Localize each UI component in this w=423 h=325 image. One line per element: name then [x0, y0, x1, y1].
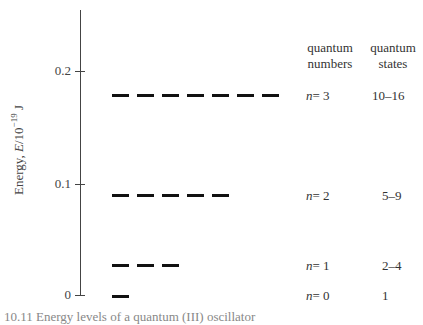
level-n1: [112, 264, 179, 267]
state-dash: [112, 295, 129, 298]
tick-label-0: 0: [65, 288, 72, 302]
y-axis-label-unit: J: [11, 105, 26, 113]
tick-label-0-1: 0.1: [55, 177, 71, 191]
state-dash: [187, 94, 204, 97]
state-dash: [137, 94, 154, 97]
state-dash: [112, 194, 129, 197]
header-line: states: [353, 56, 423, 72]
n-value: = 0: [313, 288, 330, 303]
tick-0-1: [75, 184, 85, 185]
level-n3: [112, 94, 279, 97]
y-axis-line: [80, 10, 81, 296]
state-dash: [212, 194, 229, 197]
quantum-states-n0: 1: [382, 288, 389, 304]
n-value: = 1: [313, 258, 330, 273]
quantum-number-n2: n= 2: [306, 188, 330, 204]
tick-0: [75, 295, 85, 296]
n-value: = 2: [313, 188, 330, 203]
quantum-number-n1: n= 1: [306, 258, 330, 274]
state-dash: [162, 264, 179, 267]
y-axis-label: Energy, E/10−19 J: [9, 105, 26, 195]
tick-label-0-2: 0.2: [55, 64, 71, 78]
state-dash: [262, 94, 279, 97]
state-dash: [187, 194, 204, 197]
y-axis-label-base: /10: [11, 127, 26, 144]
state-dash: [137, 264, 154, 267]
quantum-states-header: quantum states: [353, 40, 423, 72]
y-axis-label-exponent: −19: [9, 113, 19, 127]
y-axis-label-prefix: Energy,: [11, 152, 26, 195]
state-dash: [137, 194, 154, 197]
state-dash: [237, 94, 254, 97]
state-dash: [162, 94, 179, 97]
state-dash: [112, 264, 129, 267]
state-dash: [112, 94, 129, 97]
n-value: = 3: [313, 88, 330, 103]
figure-caption: 10.11 Energy levels of a quantum (III) o…: [4, 309, 255, 325]
level-n2: [112, 194, 229, 197]
state-dash: [212, 94, 229, 97]
quantum-states-n3: 10–16: [372, 88, 405, 104]
quantum-states-n2: 5–9: [382, 188, 402, 204]
quantum-number-n0: n= 0: [306, 288, 330, 304]
quantum-states-n1: 2–4: [382, 258, 402, 274]
level-n0: [112, 295, 129, 298]
header-line: quantum: [353, 40, 423, 56]
tick-0-2: [75, 71, 85, 72]
y-axis-label-var: E: [11, 144, 26, 152]
state-dash: [162, 194, 179, 197]
quantum-number-n3: n= 3: [306, 88, 330, 104]
